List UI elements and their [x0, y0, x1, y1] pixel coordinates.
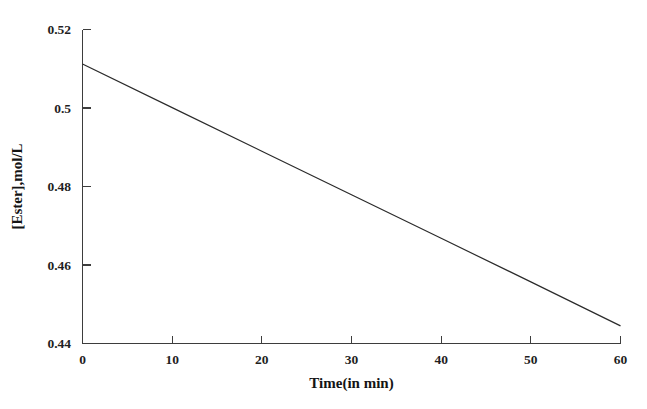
y-tick-labels: 0.52 0.5 0.48 0.46 0.44 [47, 22, 71, 351]
x-tick-label-20: 20 [255, 352, 269, 367]
x-tick-label-0: 0 [79, 352, 86, 367]
y-tick-label-0.46: 0.46 [47, 258, 71, 273]
axis-group [83, 30, 621, 344]
x-tick-marks [172, 336, 620, 344]
y-tick-label-0.44: 0.44 [47, 336, 71, 351]
x-tick-label-40: 40 [434, 352, 448, 367]
line-chart: 0.52 0.5 0.48 0.46 0.44 0 10 20 30 40 50… [0, 0, 647, 409]
x-tick-labels: 0 10 20 30 40 50 60 [79, 352, 627, 367]
x-axis-title: Time(in min) [309, 375, 393, 392]
y-tick-label-0.5: 0.5 [54, 101, 71, 116]
x-tick-label-50: 50 [524, 352, 538, 367]
chart-container: 0.52 0.5 0.48 0.46 0.44 0 10 20 30 40 50… [0, 0, 647, 409]
y-tick-label-0.52: 0.52 [47, 22, 71, 37]
x-tick-label-60: 60 [614, 352, 628, 367]
x-tick-label-10: 10 [165, 352, 179, 367]
y-axis-title: [Ester],mol/L [9, 143, 25, 229]
y-tick-label-0.48: 0.48 [47, 179, 71, 194]
data-series-line [83, 64, 621, 326]
x-tick-label-30: 30 [345, 352, 359, 367]
